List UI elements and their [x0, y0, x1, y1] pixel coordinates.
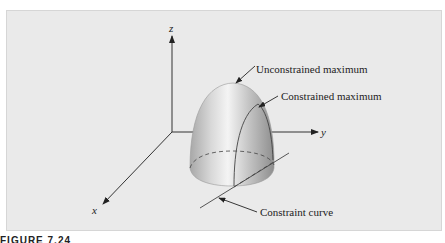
z-axis-label: z	[169, 22, 173, 34]
x-axis-label: x	[92, 204, 97, 216]
y-axis-label: y	[321, 126, 326, 138]
figure-caption: FIGURE 7.24	[0, 234, 71, 243]
constraint-curve-label: Constraint curve	[260, 206, 333, 218]
unconstrained-max-pointer	[236, 66, 255, 83]
diagram-canvas	[0, 0, 445, 243]
constrained-maximum-label: Constrained maximum	[281, 90, 382, 102]
unconstrained-maximum-label: Unconstrained maximum	[256, 63, 368, 75]
constraint-curve-pointer	[219, 198, 257, 212]
x-axis	[103, 132, 172, 204]
